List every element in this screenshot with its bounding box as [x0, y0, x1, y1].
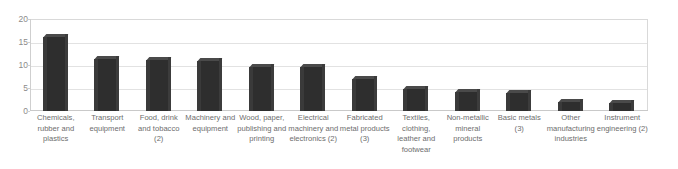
- bar[interactable]: [43, 37, 65, 111]
- bar-column[interactable]: [339, 19, 391, 111]
- x-axis-category-label: Electrical machinery and electronics (2): [288, 113, 340, 145]
- x-axis-category-label: Other manufacturing industries: [545, 113, 597, 145]
- bar-column[interactable]: [288, 19, 340, 111]
- bar-side-face: [580, 99, 583, 111]
- y-tick-mark-0: [27, 111, 30, 112]
- x-axis-category-label: Food, drink and tobacco (2): [133, 113, 185, 145]
- bar-column[interactable]: [442, 19, 494, 111]
- bar-face-highlight: [558, 102, 562, 111]
- y-tick-label-20: 20: [2, 15, 28, 24]
- bar-side-face: [477, 89, 480, 111]
- y-tick-label-5: 5: [2, 84, 28, 93]
- x-axis-category-label: Chemicals, rubber and plastics: [30, 113, 82, 145]
- y-tick-label-15: 15: [2, 38, 28, 47]
- bar-side-face: [425, 86, 428, 111]
- bar[interactable]: [455, 92, 477, 111]
- bar-face-highlight: [609, 103, 613, 111]
- bar-side-face: [168, 57, 171, 111]
- bar[interactable]: [609, 103, 631, 111]
- bar-side-face: [528, 90, 531, 111]
- bar-column[interactable]: [597, 19, 649, 111]
- bar-column[interactable]: [82, 19, 134, 111]
- bars-layer: [30, 19, 648, 111]
- x-axis-category-label: Instrument engineering (2): [597, 113, 649, 134]
- bar-side-face: [322, 64, 325, 111]
- bar-column[interactable]: [494, 19, 546, 111]
- x-axis-category-label: Non-metallic mineral products: [442, 113, 494, 145]
- x-axis-category-label: Transport equipment: [82, 113, 134, 134]
- bar-column[interactable]: [545, 19, 597, 111]
- x-axis-labels: Chemicals, rubber and plasticsTransport …: [30, 113, 648, 169]
- bar-side-face: [219, 58, 222, 111]
- y-tick-label-0: 0: [2, 107, 28, 116]
- bar-face-highlight: [455, 92, 459, 111]
- bar[interactable]: [558, 102, 580, 111]
- bar-face-highlight: [94, 59, 98, 111]
- bar-column[interactable]: [236, 19, 288, 111]
- x-axis-category-label: Wood, paper, publishing and printing: [236, 113, 288, 145]
- bar-column[interactable]: [185, 19, 237, 111]
- bar-face-highlight: [197, 61, 201, 111]
- bar-face-highlight: [352, 79, 356, 111]
- bar-column[interactable]: [30, 19, 82, 111]
- bar[interactable]: [94, 59, 116, 111]
- bar-column[interactable]: [133, 19, 185, 111]
- bar-face-highlight: [403, 89, 407, 111]
- bar-face-highlight: [300, 67, 304, 111]
- bar[interactable]: [146, 60, 168, 111]
- x-axis-category-label: Machinery and equipment: [185, 113, 237, 134]
- bar-side-face: [271, 64, 274, 111]
- bar-side-face: [631, 100, 634, 111]
- bar-side-face: [116, 56, 119, 111]
- bar[interactable]: [506, 93, 528, 111]
- bar-face-highlight: [249, 67, 253, 111]
- y-tick-label-10: 10: [2, 61, 28, 70]
- bar-face-highlight: [43, 37, 47, 111]
- bar-chart: 20151050 Chemicals, rubber and plasticsT…: [0, 0, 678, 169]
- bar[interactable]: [197, 61, 219, 111]
- bar-side-face: [374, 76, 377, 111]
- bar[interactable]: [249, 67, 271, 111]
- bar-column[interactable]: [391, 19, 443, 111]
- bar[interactable]: [352, 79, 374, 111]
- y-axis: 20151050: [0, 0, 28, 169]
- bar-face-highlight: [146, 60, 150, 111]
- bar[interactable]: [403, 89, 425, 111]
- bar-side-face: [65, 34, 68, 111]
- x-axis-category-label: Basic metals (3): [494, 113, 546, 134]
- x-axis-category-label: Textiles, clothing, leather and footwear: [391, 113, 443, 155]
- x-axis-category-label: Fabricated metal products (3): [339, 113, 391, 145]
- bar-face-highlight: [506, 93, 510, 111]
- bar[interactable]: [300, 67, 322, 111]
